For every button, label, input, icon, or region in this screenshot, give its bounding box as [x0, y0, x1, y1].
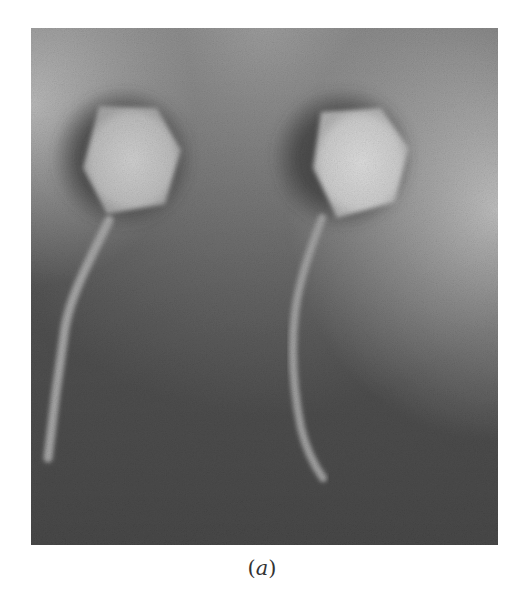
- figure-caption: (a): [0, 556, 524, 580]
- micrograph-image: [31, 28, 498, 545]
- caption-open-paren: (: [248, 556, 256, 580]
- figure: (a): [0, 0, 524, 592]
- caption-letter: a: [256, 556, 269, 580]
- caption-close-paren: ): [268, 556, 276, 580]
